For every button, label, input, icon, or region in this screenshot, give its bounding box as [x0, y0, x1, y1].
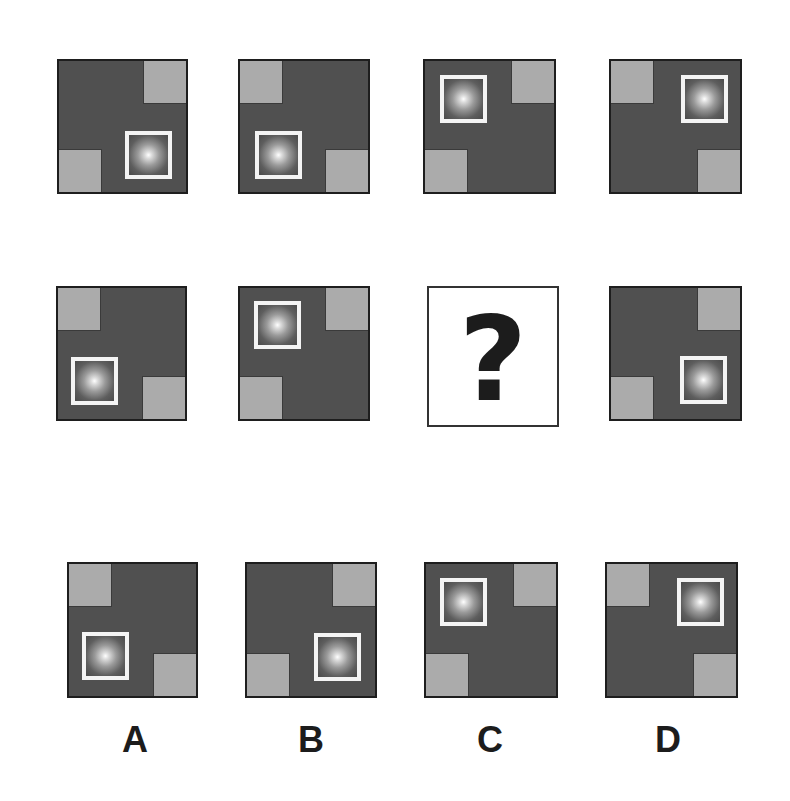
gray-corner-square	[693, 653, 736, 696]
option-d-tile[interactable]	[605, 562, 738, 698]
gray-corner-square	[511, 61, 554, 104]
gray-corner-square	[697, 149, 740, 192]
gray-corner-square	[325, 288, 368, 331]
option-d-label[interactable]: D	[655, 722, 681, 758]
framed-glow-square	[314, 633, 361, 681]
gray-corner-square	[325, 149, 368, 192]
framed-glow-square	[681, 75, 728, 123]
framed-glow-square	[677, 578, 724, 626]
gray-corner-square	[611, 376, 654, 419]
framed-glow-square	[440, 578, 487, 626]
grid-tile-r2c1	[56, 286, 187, 421]
missing-tile: ?	[427, 286, 559, 427]
framed-glow-square	[440, 75, 487, 123]
option-a-label[interactable]: A	[122, 722, 148, 758]
option-a-tile[interactable]	[67, 562, 198, 698]
gray-corner-square	[332, 564, 375, 607]
grid-tile-r1c2	[238, 59, 370, 194]
gray-corner-square	[240, 61, 283, 104]
grid-tile-r2c2	[238, 286, 370, 421]
grid-tile-r1c4	[609, 59, 742, 194]
framed-glow-square	[680, 356, 727, 404]
gray-corner-square	[142, 376, 185, 419]
framed-glow-square	[125, 131, 172, 179]
gray-corner-square	[153, 653, 196, 696]
gray-corner-square	[143, 61, 186, 104]
gray-corner-square	[58, 288, 101, 331]
option-b-label[interactable]: B	[298, 722, 324, 758]
gray-corner-square	[513, 564, 556, 607]
gray-corner-square	[59, 149, 102, 192]
grid-tile-r1c3	[423, 59, 556, 194]
framed-glow-square	[71, 357, 118, 405]
gray-corner-square	[240, 376, 283, 419]
gray-corner-square	[697, 288, 740, 331]
gray-corner-square	[426, 653, 469, 696]
framed-glow-square	[82, 632, 129, 680]
framed-glow-square	[254, 301, 301, 349]
gray-corner-square	[611, 61, 654, 104]
option-b-tile[interactable]	[245, 562, 377, 698]
option-c-label[interactable]: C	[477, 722, 503, 758]
grid-tile-r2c4	[609, 286, 742, 421]
framed-glow-square	[255, 131, 302, 179]
gray-corner-square	[247, 653, 290, 696]
gray-corner-square	[69, 564, 112, 607]
grid-tile-r1c1	[57, 59, 188, 194]
gray-corner-square	[607, 564, 650, 607]
option-c-tile[interactable]	[424, 562, 558, 698]
gray-corner-square	[425, 149, 468, 192]
question-mark: ?	[459, 300, 527, 418]
